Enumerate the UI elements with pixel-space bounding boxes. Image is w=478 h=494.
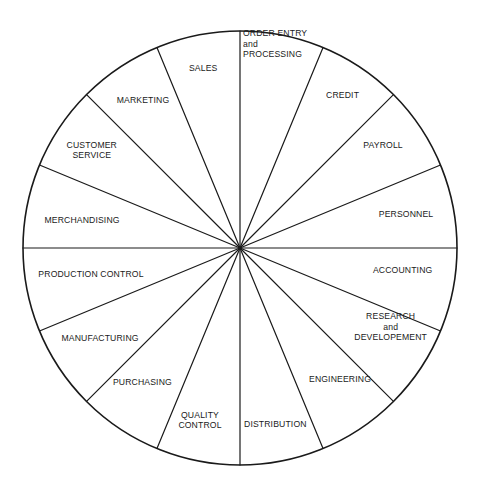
wheel-svg xyxy=(0,0,478,494)
business-functions-wheel-diagram: ORDER ENTRYandPROCESSINGCREDITPAYROLLPER… xyxy=(0,0,478,494)
spokes-over-group xyxy=(23,31,457,465)
